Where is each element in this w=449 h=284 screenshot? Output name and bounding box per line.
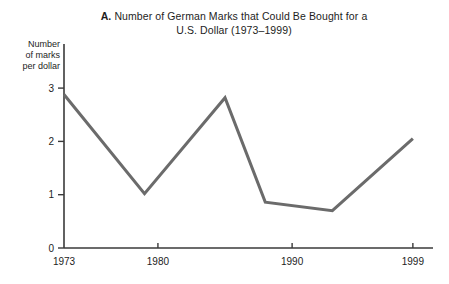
y-axis-tick-label: 2	[48, 136, 54, 147]
x-axis-tick-label: 1990	[281, 256, 304, 267]
y-axis-tick-label: 1	[48, 189, 54, 200]
y-axis-tick-label: 3	[48, 83, 54, 94]
x-axis-tick-label: 1980	[147, 256, 170, 267]
axes	[64, 44, 433, 248]
x-axis-tick-label: 1973	[53, 256, 76, 267]
x-axis-ticks: 1973198019901999	[53, 243, 425, 267]
plot-area: 0123 1973198019901999	[0, 0, 449, 284]
data-line	[64, 95, 413, 211]
y-axis-tick-label: 0	[48, 243, 54, 254]
chart-figure: A. Number of German Marks that Could Be …	[0, 0, 449, 284]
data-series-group	[64, 95, 413, 211]
y-axis-ticks: 0123	[48, 83, 64, 254]
x-axis-tick-label: 1999	[402, 256, 425, 267]
